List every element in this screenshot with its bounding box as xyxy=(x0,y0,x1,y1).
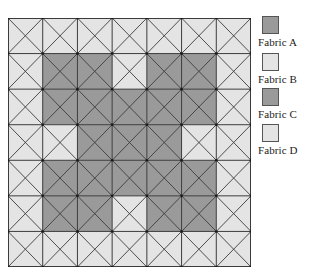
quilt-cell xyxy=(43,54,78,90)
quilt-cell xyxy=(147,125,182,161)
quilt-cell xyxy=(77,231,112,267)
fabric-c-label: Fabric C xyxy=(258,108,297,120)
quilt-cell xyxy=(182,89,217,125)
quilt-cell xyxy=(8,54,43,90)
quilt-cell xyxy=(216,54,251,90)
quilt-svg xyxy=(8,18,251,267)
quilt-cell xyxy=(77,125,112,161)
quilt-cell xyxy=(216,160,251,196)
quilt-cell xyxy=(182,196,217,232)
quilt-cell xyxy=(112,89,147,125)
fabric-a-label: Fabric A xyxy=(258,36,297,48)
quilt-cell xyxy=(216,89,251,125)
quilt-cell xyxy=(77,196,112,232)
fabric-a-swatch xyxy=(262,16,279,34)
quilt-grid-diagram xyxy=(8,18,251,267)
quilt-cell xyxy=(182,125,217,161)
quilt-cell xyxy=(8,125,43,161)
quilt-cell xyxy=(182,160,217,196)
fabric-c-swatch xyxy=(262,88,279,106)
fabric-b-label: Fabric B xyxy=(258,73,297,85)
quilt-cell xyxy=(216,196,251,232)
quilt-cell xyxy=(182,54,217,90)
quilt-cell xyxy=(147,54,182,90)
quilt-cell xyxy=(182,18,217,54)
quilt-cell xyxy=(182,231,217,267)
quilt-cell xyxy=(77,160,112,196)
quilt-cell xyxy=(43,231,78,267)
quilt-cell xyxy=(147,196,182,232)
quilt-cell xyxy=(112,231,147,267)
fabric-d-label: Fabric D xyxy=(258,144,298,156)
quilt-cell xyxy=(43,18,78,54)
fabric-d-swatch xyxy=(262,124,279,142)
quilt-cell xyxy=(216,125,251,161)
quilt-cell xyxy=(8,89,43,125)
quilt-cell xyxy=(147,89,182,125)
quilt-cell xyxy=(112,18,147,54)
quilt-cell xyxy=(112,160,147,196)
quilt-cell xyxy=(8,196,43,232)
quilt-cell xyxy=(43,89,78,125)
quilt-cell xyxy=(43,160,78,196)
quilt-cell xyxy=(8,231,43,267)
quilt-cell xyxy=(77,54,112,90)
quilt-cell xyxy=(43,125,78,161)
quilt-cell xyxy=(43,196,78,232)
quilt-cell xyxy=(147,18,182,54)
quilt-cell xyxy=(147,231,182,267)
quilt-cell xyxy=(112,125,147,161)
quilt-cell xyxy=(216,18,251,54)
quilt-cell xyxy=(77,89,112,125)
quilt-cell xyxy=(8,18,43,54)
fabric-b-swatch xyxy=(262,53,279,71)
quilt-cell xyxy=(77,18,112,54)
quilt-cell xyxy=(216,231,251,267)
quilt-cell xyxy=(112,54,147,90)
quilt-cell xyxy=(147,160,182,196)
quilt-cell xyxy=(112,196,147,232)
quilt-cell xyxy=(8,160,43,196)
